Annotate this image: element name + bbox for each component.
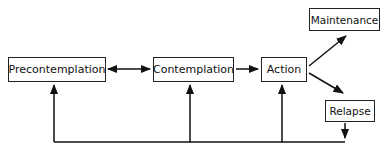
node-label: Maintenance bbox=[311, 14, 379, 26]
node-label: Action bbox=[267, 63, 301, 76]
node-maintenance: Maintenance bbox=[309, 8, 380, 31]
node-precontemplation: Precontemplation bbox=[8, 57, 106, 82]
arrow-action-maintenance bbox=[309, 36, 346, 66]
node-relapse: Relapse bbox=[325, 100, 375, 122]
node-contemplation: Contemplation bbox=[153, 57, 234, 82]
node-label: Precontemplation bbox=[9, 63, 106, 76]
node-label: Relapse bbox=[329, 105, 370, 117]
node-label: Contemplation bbox=[153, 63, 234, 76]
node-action: Action bbox=[261, 57, 307, 82]
arrow-action-relapse bbox=[309, 73, 343, 93]
